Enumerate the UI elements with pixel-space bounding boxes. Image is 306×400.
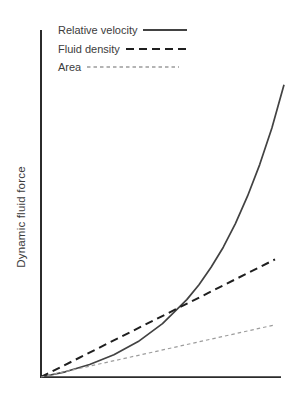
series-line-relative-velocity	[41, 85, 284, 377]
dashed-line-sample-icon	[126, 46, 186, 52]
series-line-area	[41, 325, 273, 377]
legend-label: Area	[58, 61, 81, 73]
solid-line-sample-icon	[143, 27, 187, 33]
series-line-fluid-density	[41, 259, 275, 377]
legend-item-area: Area	[58, 58, 187, 77]
legend: Relative velocity Fluid density Area	[58, 21, 187, 77]
chart-figure: Dynamic fluid force Relative velocity Fl…	[0, 0, 306, 400]
legend-item-fluid-density: Fluid density	[58, 40, 187, 59]
y-axis-label: Dynamic fluid force	[15, 166, 27, 268]
legend-label: Relative velocity	[58, 24, 137, 36]
legend-item-relative-velocity: Relative velocity	[58, 21, 187, 40]
fine-dashed-line-sample-icon	[87, 64, 179, 70]
legend-label: Fluid density	[58, 43, 120, 55]
